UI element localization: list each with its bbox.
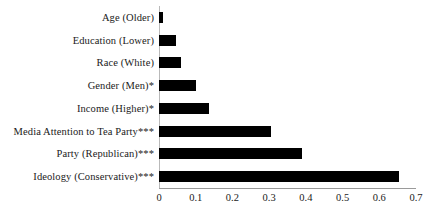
x-tick-label: 0.2 <box>226 192 239 203</box>
category-label: Gender (Men)* <box>0 80 154 91</box>
category-label: Race (White) <box>0 57 154 68</box>
bar <box>159 35 176 46</box>
x-axis-ticks: 0 0.1 0.2 0.3 0.4 0.5 0.6 0.7 <box>159 189 416 207</box>
x-tick-label: 0.7 <box>409 192 422 203</box>
bar-track <box>159 165 416 188</box>
bar-rows: Age (Older) Education (Lower) Race (Whit… <box>0 6 439 188</box>
bar-track <box>159 6 416 29</box>
x-tick-label: 0.1 <box>189 192 202 203</box>
bar <box>159 57 181 68</box>
chart-row: Gender (Men)* <box>0 74 439 97</box>
bar <box>159 148 302 159</box>
bar <box>159 126 271 137</box>
horizontal-bar-chart: Age (Older) Education (Lower) Race (Whit… <box>0 0 439 222</box>
bar <box>159 171 399 182</box>
category-label: Education (Lower) <box>0 35 154 46</box>
chart-row: Income (Higher)* <box>0 97 439 120</box>
chart-row: Ideology (Conservative)*** <box>0 165 439 188</box>
category-label: Ideology (Conservative)*** <box>0 171 154 182</box>
category-label: Party (Republican)*** <box>0 148 154 159</box>
chart-row: Media Attention to Tea Party*** <box>0 120 439 143</box>
bar <box>159 12 163 23</box>
chart-row: Party (Republican)*** <box>0 143 439 166</box>
bar <box>159 103 209 114</box>
x-tick-label: 0.6 <box>373 192 386 203</box>
bar-track <box>159 74 416 97</box>
bar-track <box>159 29 416 52</box>
chart-row: Education (Lower) <box>0 29 439 52</box>
bar-track <box>159 143 416 166</box>
bar <box>159 80 196 91</box>
x-tick-label: 0.4 <box>299 192 312 203</box>
chart-row: Age (Older) <box>0 6 439 29</box>
bar-track <box>159 120 416 143</box>
x-tick-label: 0.3 <box>263 192 276 203</box>
chart-row: Race (White) <box>0 52 439 75</box>
category-label: Age (Older) <box>0 12 154 23</box>
x-tick-label: 0 <box>156 192 161 203</box>
category-label: Income (Higher)* <box>0 103 154 114</box>
bar-track <box>159 52 416 75</box>
x-tick-label: 0.5 <box>336 192 349 203</box>
category-label: Media Attention to Tea Party*** <box>0 126 154 137</box>
bar-track <box>159 97 416 120</box>
